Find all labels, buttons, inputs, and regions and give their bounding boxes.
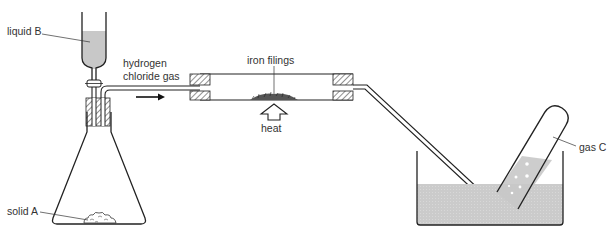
- solid-a-leader: [40, 212, 88, 220]
- heat-arrow-icon: [261, 104, 287, 120]
- left-bung: [190, 74, 210, 100]
- apparatus-diagram: [0, 0, 616, 238]
- gas-flow-arrow: [136, 94, 165, 101]
- label-liquid-b: liquid B: [7, 25, 41, 37]
- label-hcl-line1: hydrogen: [123, 57, 167, 69]
- label-gas-c: gas C: [579, 141, 606, 153]
- stopcock: [85, 80, 103, 87]
- flask-stopper: [86, 98, 110, 126]
- label-iron-filings: iron filings: [247, 54, 294, 66]
- delivery-tube-1: [101, 86, 200, 125]
- solid-a-pile: [84, 212, 116, 223]
- label-solid-a: solid A: [7, 205, 38, 217]
- right-bung: [333, 74, 353, 100]
- label-hcl-line2: chloride gas: [123, 70, 180, 82]
- conical-flask: [53, 112, 146, 224]
- combustion-tube: [190, 66, 353, 100]
- label-heat: heat: [261, 122, 281, 134]
